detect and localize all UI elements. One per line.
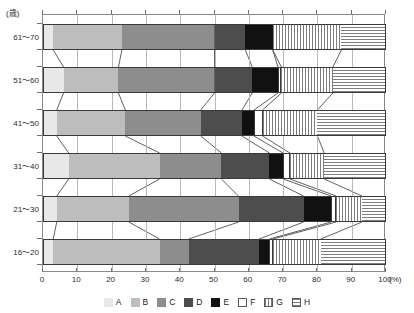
bar-row [43,239,386,265]
legend-swatch-C [157,298,166,307]
gridline [352,15,353,271]
y-axis-tick [37,152,42,153]
x-axis-tick [248,268,249,272]
x-axis-tick [76,10,77,14]
legend-item-G: G [264,298,283,307]
y-axis-tick [37,195,42,196]
x-axis-tick [76,268,77,272]
x-axis-tick-label: 40 [175,275,184,284]
legend-label: E [223,298,229,307]
x-axis-tick [214,268,215,272]
gridline [283,15,284,271]
legend-item-H: H [292,298,310,307]
connector-line [242,24,304,265]
legend-label: D [196,298,202,307]
gridline [249,15,250,271]
legend-item-F: F [238,298,255,307]
stacked-bar-chart: (歳) 61～7051～6041～5031～4021～3016～20 01020… [0,0,414,313]
y-axis-tick [37,109,42,110]
y-axis-tick-label: 16～20 [13,246,39,257]
x-axis-tick [385,10,386,14]
x-axis-tick [179,268,180,272]
y-axis-tick [37,66,42,67]
gridline [180,15,181,271]
bar-outline [43,153,386,179]
connector-line [53,24,68,265]
x-axis-tick-label: 10 [72,275,81,284]
x-axis-tick [111,10,112,14]
x-axis-unit-label: (%) [389,275,401,284]
x-axis-labels: 0102030405060708090100(%) [0,275,414,289]
x-axis-tick [179,10,180,14]
bar-row [43,67,386,93]
connector-line [118,24,159,265]
x-axis-tick [145,268,146,272]
legend-label: B [143,298,149,307]
bar-row [43,110,386,136]
x-axis-tick [42,268,43,272]
plot-area [42,14,385,272]
gridline [77,15,78,271]
x-axis-tick [248,10,249,14]
connector-line [254,24,331,265]
y-axis-tick [37,238,42,239]
x-axis-tick [385,268,386,272]
y-axis-tick-label: 41～50 [13,117,39,128]
x-axis-tick [282,268,283,272]
legend-swatch-E [211,298,220,307]
bar-outline [43,196,386,222]
x-axis-tick-label: 50 [209,275,218,284]
legend-label: F [250,298,255,307]
gridline [112,15,113,271]
gridline [146,15,147,271]
y-axis-tick [37,49,42,50]
y-axis-tick [37,135,42,136]
legend-item-D: D [184,298,202,307]
gridline [215,15,216,271]
bar-outline [43,110,386,136]
legend-item-E: E [211,298,229,307]
x-axis-tick-label: 20 [106,275,115,284]
y-axis-tick [37,264,42,265]
x-axis-tick [214,10,215,14]
legend-swatch-G [264,298,273,307]
y-axis-tick-label: 51～60 [13,74,39,85]
y-axis-tick [37,92,42,93]
legend-item-A: A [104,298,122,307]
legend-label: G [276,298,283,307]
x-axis-tick [351,10,352,14]
y-axis-tick-label: 61～70 [13,31,39,42]
connector-line [263,24,337,265]
connector-line [317,24,362,265]
x-axis-tick-label: 30 [140,275,149,284]
bar-outline [43,24,386,50]
chart-legend: ABCDEFGH [0,293,414,311]
legend-swatch-A [104,298,113,307]
legend-swatch-F [238,298,247,307]
x-axis-tick [351,268,352,272]
legend-swatch-H [292,298,301,307]
bar-row [43,153,386,179]
x-axis-tick-label: 0 [40,275,44,284]
y-axis-labels: 61～7051～6041～5031～4021～3016～20 [0,0,39,313]
legend-label: H [304,298,310,307]
y-axis-tick [37,221,42,222]
bar-row [43,24,386,50]
x-axis-tick [111,268,112,272]
y-axis-tick [37,23,42,24]
x-axis-tick-label: 80 [312,275,321,284]
x-axis-tick [282,10,283,14]
y-axis-tick [37,178,42,179]
x-axis-tick [145,10,146,14]
bar-outline [43,239,386,265]
legend-swatch-B [131,298,140,307]
legend-label: C [169,298,175,307]
x-axis-tick-label: 60 [243,275,252,284]
bar-outline [43,67,386,93]
legend-label: A [116,298,122,307]
legend-item-B: B [131,298,149,307]
x-axis-tick-label: 90 [346,275,355,284]
legend-item-C: C [157,298,175,307]
bar-row [43,196,386,222]
legend-swatch-D [184,298,193,307]
